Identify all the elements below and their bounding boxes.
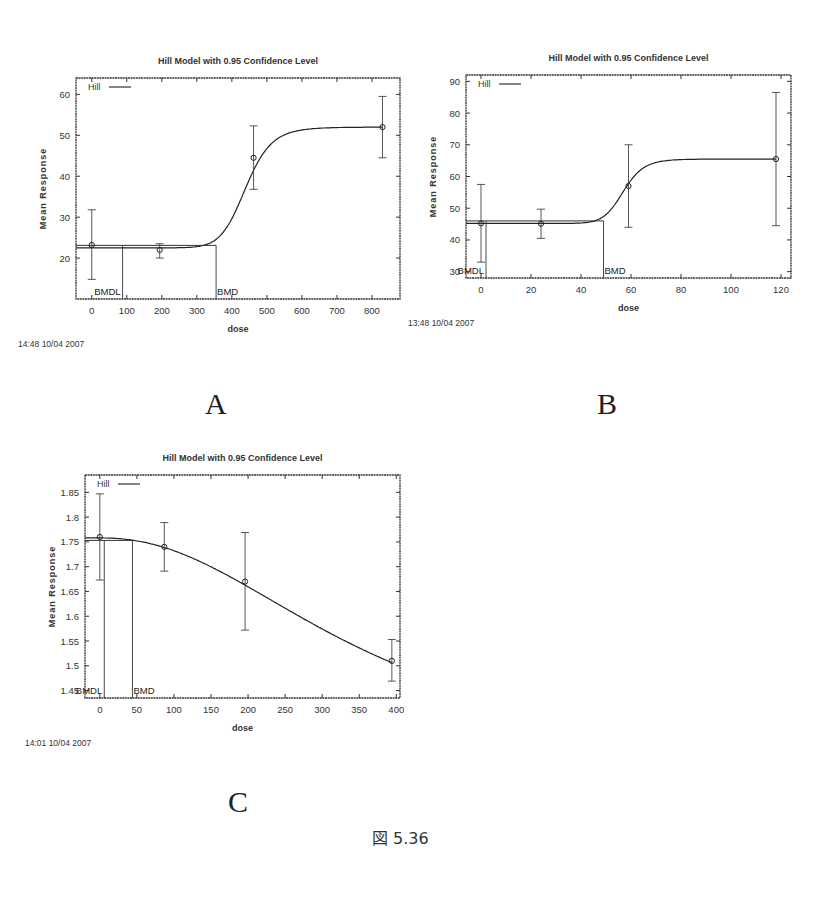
- bmdl-label: BMDL: [94, 286, 120, 297]
- chart-panel-c: Hill Model with 0.95 Confidence Level050…: [25, 453, 404, 748]
- y-tick-label: 1.6: [66, 611, 79, 622]
- x-tick-label: 200: [240, 704, 256, 715]
- timestamp: 14:01 10/04 2007: [25, 738, 91, 748]
- panel-label-c: C: [228, 785, 248, 819]
- x-axis-label: dose: [227, 324, 248, 334]
- x-tick-label: 120: [773, 284, 789, 295]
- x-tick-label: 250: [277, 704, 293, 715]
- y-tick-label: 1.85: [61, 487, 80, 498]
- bmdl-label: BMDL: [458, 265, 484, 276]
- y-tick-label: 70: [449, 139, 460, 150]
- y-tick-label: 30: [59, 212, 70, 223]
- y-tick-label: 90: [449, 76, 460, 87]
- y-tick-label: 1.75: [61, 536, 80, 547]
- y-tick-label: 60: [449, 171, 460, 182]
- y-tick-label: 40: [59, 171, 70, 182]
- y-tick-label: 60: [59, 89, 70, 100]
- x-tick-label: 40: [576, 284, 587, 295]
- x-tick-label: 80: [676, 284, 687, 295]
- x-tick-label: 0: [478, 284, 483, 295]
- y-tick-label: 20: [59, 253, 70, 264]
- y-axis-label: Mean Response: [428, 136, 438, 218]
- y-tick-label: 1.65: [61, 586, 80, 597]
- chart-title: Hill Model with 0.95 Confidence Level: [158, 56, 318, 66]
- chart-title: Hill Model with 0.95 Confidence Level: [548, 53, 708, 63]
- x-tick-label: 400: [224, 305, 240, 316]
- x-tick-label: 400: [388, 704, 404, 715]
- hill-curve: [85, 538, 392, 663]
- x-tick-label: 20: [526, 284, 537, 295]
- x-axis-label: dose: [232, 723, 253, 733]
- y-tick-label: 40: [449, 234, 460, 245]
- x-tick-label: 600: [294, 305, 310, 316]
- x-tick-label: 50: [132, 704, 143, 715]
- figure-charts: Hill Model with 0.95 Confidence Level010…: [0, 0, 838, 897]
- y-tick-label: 50: [449, 203, 460, 214]
- x-tick-label: 800: [364, 305, 380, 316]
- y-tick-label: 80: [449, 108, 460, 119]
- y-tick-label: 1.5: [66, 660, 79, 671]
- y-tick-label: 1.8: [66, 512, 79, 523]
- bmdl-label: BMDL: [76, 685, 102, 696]
- x-tick-label: 0: [97, 704, 102, 715]
- legend-label: Hill: [478, 79, 491, 89]
- hill-curve: [76, 127, 383, 248]
- panel-label-a: A: [205, 387, 227, 421]
- x-tick-label: 200: [154, 305, 170, 316]
- figure-caption: 図 5.36: [372, 825, 429, 849]
- x-tick-label: 100: [723, 284, 739, 295]
- y-tick-label: 1.55: [61, 636, 80, 647]
- plot-frame: [76, 78, 400, 299]
- chart-title: Hill Model with 0.95 Confidence Level: [162, 453, 322, 463]
- timestamp: 13:48 10/04 2007: [408, 318, 474, 328]
- chart-panel-b: Hill Model with 0.95 Confidence Level020…: [408, 53, 791, 328]
- x-tick-label: 0: [89, 305, 94, 316]
- panel-label-b: B: [597, 387, 617, 421]
- y-axis-label: Mean Response: [38, 148, 48, 230]
- legend-label: Hill: [88, 82, 101, 92]
- x-tick-label: 300: [189, 305, 205, 316]
- y-tick-label: 50: [59, 130, 70, 141]
- bmd-label: BMD: [217, 286, 238, 297]
- bmd-label: BMD: [133, 685, 154, 696]
- x-tick-label: 100: [166, 704, 182, 715]
- x-axis-label: dose: [618, 303, 639, 313]
- chart-panel-a: Hill Model with 0.95 Confidence Level010…: [18, 56, 400, 349]
- x-tick-label: 350: [351, 704, 367, 715]
- x-tick-label: 150: [203, 704, 219, 715]
- y-axis-label: Mean Response: [47, 546, 57, 628]
- legend-label: Hill: [97, 479, 110, 489]
- x-tick-label: 300: [314, 704, 330, 715]
- x-tick-label: 700: [329, 305, 345, 316]
- x-tick-label: 60: [626, 284, 637, 295]
- hill-curve: [466, 159, 776, 223]
- timestamp: 14:48 10/04 2007: [18, 339, 84, 349]
- y-tick-label: 1.7: [66, 561, 79, 572]
- bmd-label: BMD: [605, 265, 626, 276]
- x-tick-label: 500: [259, 305, 275, 316]
- x-tick-label: 100: [119, 305, 135, 316]
